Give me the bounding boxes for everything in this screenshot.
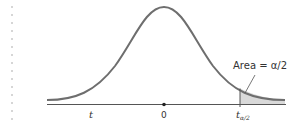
critical-value-label: tα/2: [236, 110, 250, 121]
center-point-marker: [162, 103, 166, 107]
critical-value-subscript: α/2: [240, 114, 250, 121]
center-value-label: 0: [161, 111, 167, 120]
axis-variable-label: t: [89, 110, 93, 120]
t-distribution-figure: t 0 tα/2 Area = α/2: [0, 0, 297, 132]
annotation-leader-line: [245, 75, 255, 93]
tail-area-annotation: Area = α/2: [233, 61, 287, 71]
shaded-tail-area: [240, 89, 285, 105]
